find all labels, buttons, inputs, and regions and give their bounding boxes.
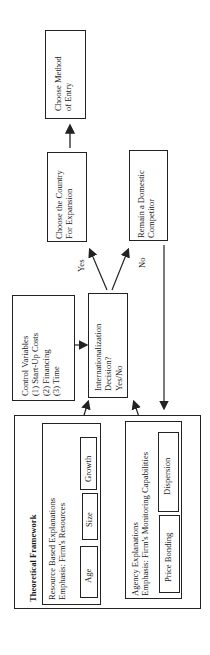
item-price-bonding: Price Bonding xyxy=(159,515,180,593)
node-choose-method-text: Choose Method of Entry xyxy=(53,56,74,111)
item-dispersion: Dispersion xyxy=(158,432,179,512)
node-control-variables: Control Variables (1) Start-Up Costs (2)… xyxy=(12,295,75,401)
item-size: Size xyxy=(82,493,98,540)
item-growth: Growth xyxy=(80,437,97,490)
node-decision-text: Internationalization Decision? Yes/No xyxy=(93,324,124,391)
node-remain-domestic-text: Remain a Domestic Competitor xyxy=(136,170,157,238)
node-decision: Internationalization Decision? Yes/No xyxy=(88,293,128,398)
node-resource-explanations: Resource Based Explanations Emphasis: Fi… xyxy=(42,423,101,605)
agency-explanations-text: Agency Explanations Emphasis: Firm's Mon… xyxy=(130,452,151,596)
edge-label-yes: Yes xyxy=(76,259,86,272)
resource-explanations-text: Resource Based Explanations Emphasis: Fi… xyxy=(47,498,68,600)
arrow-yes xyxy=(90,250,107,290)
arrow-no xyxy=(112,250,128,290)
node-theoretical-framework: Theoretical Framework Resource Based Exp… xyxy=(14,415,201,609)
node-choose-method: Choose Method of Entry xyxy=(45,30,86,119)
item-age: Age xyxy=(80,546,98,598)
edge-label-no: No xyxy=(137,257,147,268)
node-control-variables-text: Control Variables (1) Start-Up Costs (2)… xyxy=(20,333,61,396)
node-choose-country: Choose the Country For Expansion xyxy=(47,152,87,242)
node-choose-country-text: Choose the Country For Expansion xyxy=(54,170,75,239)
node-agency-explanations: Agency Explanations Emphasis: Firm's Mon… xyxy=(125,421,182,599)
framework-title: Theoretical Framework xyxy=(28,515,38,602)
node-remain-domestic: Remain a Domestic Competitor xyxy=(129,150,168,241)
